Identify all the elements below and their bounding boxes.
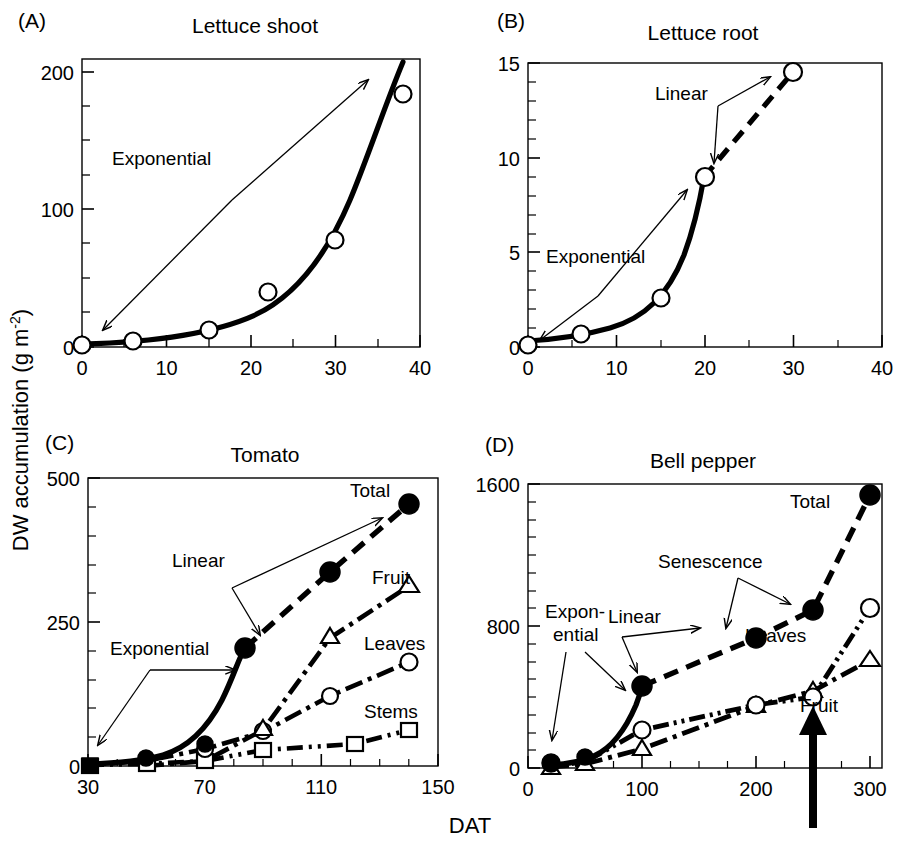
panel-a-ytick-0: 0	[63, 337, 74, 359]
panel-a-letter: (A)	[18, 9, 46, 32]
panel-c-label-leaves: Leaves	[364, 633, 425, 654]
panel-d-ytick-1600: 1600	[476, 474, 521, 496]
panel-c-xtick-150: 150	[421, 776, 454, 798]
panel-a-xtick-30: 30	[324, 357, 346, 379]
panel-b-xtick-30: 30	[782, 357, 804, 379]
panel-d-ytick-800: 800	[487, 616, 520, 638]
panel-b-xtick-40: 40	[871, 357, 893, 379]
panel-a-xtick-20: 20	[240, 357, 262, 379]
panel-d-annot-linear-label: Linear	[608, 606, 661, 627]
panel-c-xtick-30: 30	[77, 776, 99, 798]
panel-c-xtick-110: 110	[305, 776, 337, 798]
panel-b-annot-linear-label: Linear	[655, 83, 708, 104]
panel-b-xtick-10: 10	[605, 357, 627, 379]
y-axis-title-sup: -2	[7, 316, 23, 329]
svg-text:DW accumulation (g m-2): DW accumulation (g m-2)	[7, 309, 33, 551]
panel-b-ytick-10: 10	[498, 148, 520, 170]
panel-d-label-leaves: Leaves	[745, 625, 806, 646]
panel-b-xtick-20: 20	[694, 357, 716, 379]
panel-d-annot-senescence-label: Senescence	[658, 551, 763, 572]
y-axis-title-main: DW accumulation (g m	[8, 329, 33, 552]
panel-d-annot-exp-label-line1: Expon-	[545, 601, 605, 622]
panel-d-xtick-0: 0	[522, 778, 533, 800]
panel-c-title: Tomato	[231, 443, 300, 466]
panel-d-letter: (D)	[485, 433, 514, 456]
panel-a-xtick-0: 0	[76, 357, 87, 379]
panel-b-title: Lettuce root	[648, 21, 759, 44]
panel-c-label-stems: Stems	[364, 701, 418, 722]
figure-root: DW accumulation (g m-2) DAT (A) Lettuce …	[0, 0, 901, 845]
y-axis-title: DW accumulation (g m-2)	[7, 309, 33, 551]
y-axis-title-tail: )	[8, 309, 33, 316]
panel-d-xtick-300: 300	[853, 778, 886, 800]
panel-a-annot-label: Exponential	[112, 148, 211, 169]
panel-d-title: Bell pepper	[650, 449, 756, 472]
panel-d-label-fruit: Fruit	[800, 695, 839, 716]
panel-b-ytick-15: 15	[498, 53, 520, 75]
panel-c-ytick-500: 500	[47, 468, 80, 490]
background	[0, 0, 901, 845]
panel-a-ytick-100: 100	[41, 199, 74, 221]
panel-c-ytick-250: 250	[47, 612, 80, 634]
panel-d-xtick-100: 100	[625, 778, 658, 800]
x-axis-title: DAT	[449, 813, 491, 838]
panel-c-annot-linear-label: Linear	[172, 550, 225, 571]
panel-a-xtick-10: 10	[155, 357, 177, 379]
panel-c-label-fruit: Fruit	[372, 567, 411, 588]
figure-svg: DW accumulation (g m-2) DAT (A) Lettuce …	[0, 0, 901, 845]
panel-d-label-total: Total	[790, 491, 830, 512]
panel-d-annot-exp-label-line2: ential	[553, 624, 598, 645]
panel-a-xtick-40: 40	[409, 357, 431, 379]
panel-d-ytick-0: 0	[509, 758, 520, 780]
panel-c-annot-exp-label: Exponential	[110, 638, 209, 659]
panel-a-ytick-200: 200	[41, 62, 74, 84]
panel-c-label-total: Total	[350, 480, 390, 501]
panel-d-xtick-200: 200	[739, 778, 772, 800]
panel-b-letter: (B)	[497, 9, 525, 32]
panel-a-title: Lettuce shoot	[192, 14, 318, 37]
panel-b-ytick-0: 0	[509, 337, 520, 359]
panel-c-xtick-70: 70	[194, 776, 216, 798]
panel-c-ytick-0: 0	[69, 756, 80, 778]
panel-b-xtick-0: 0	[522, 357, 533, 379]
panel-c-letter: (C)	[45, 431, 74, 454]
panel-b-ytick-5: 5	[509, 242, 520, 264]
